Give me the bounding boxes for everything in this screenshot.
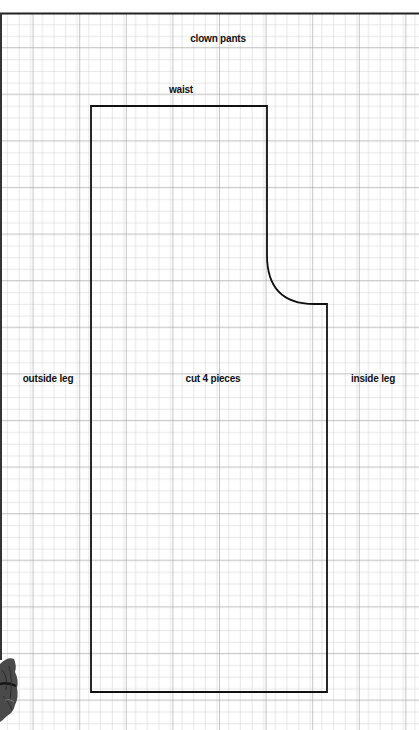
grid-paper (0, 0, 419, 730)
cut-instruction-label: cut 4 pieces (186, 373, 241, 384)
waist-label: waist (169, 84, 193, 95)
pattern-title: clown pants (190, 33, 246, 44)
outside-leg-label: outside leg (23, 373, 74, 384)
pattern-sheet: clown pants waist outside leg cut 4 piec… (0, 0, 419, 730)
inside-leg-label: inside leg (351, 373, 395, 384)
grid-lines (0, 13, 419, 730)
